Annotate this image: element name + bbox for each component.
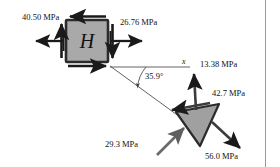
right-normal-stress-arrow — [110, 31, 142, 51]
wedge-element-body — [176, 104, 219, 146]
left-normal-stress-arrow — [36, 31, 64, 51]
x-axis-label: x — [182, 58, 186, 66]
wedge-element-group — [176, 104, 219, 146]
wedge-resultant-stress-label: 56.0 MPa — [205, 152, 238, 161]
left-stress-label: 40.50 MPa — [22, 13, 59, 22]
wedge-shear-stress-label: 42.7 MPa — [212, 89, 245, 98]
right-stress-label: 26.76 MPa — [120, 18, 157, 27]
element-name-label: H — [66, 20, 108, 62]
wedge-inclined-stress-label: 29.3 MPa — [105, 140, 138, 149]
page-border-rule — [265, 0, 266, 167]
wedge-normal-stress-label: 13.38 MPa — [200, 60, 237, 69]
wedge-resultant-stress-arrow — [212, 122, 240, 148]
wedge-inclined-stress-arrow — [157, 128, 184, 155]
figure-canvas: 40.50 MPa 26.76 MPa x 35.9° 13.38 MPa 42… — [0, 0, 280, 167]
angle-label: 35.9° — [145, 72, 163, 81]
